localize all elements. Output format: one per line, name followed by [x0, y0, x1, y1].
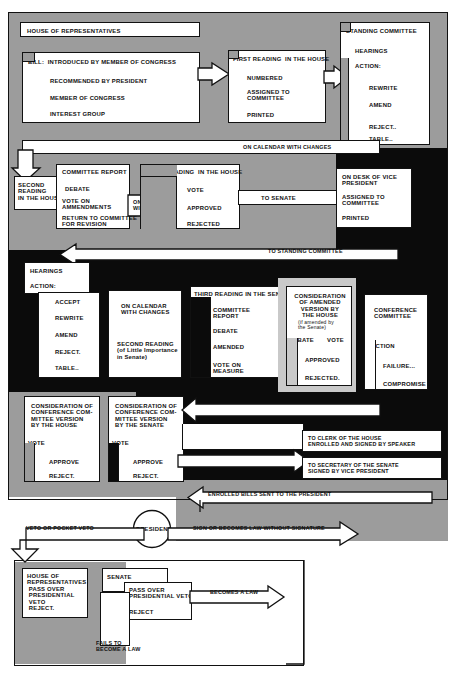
third-reading-house-item-0: VOTE: [187, 187, 204, 193]
third-reading-house-item-1: APPROVED: [187, 205, 222, 211]
on-calendar-with-changes-1-label: ON CALENDAR WITH CHANGES: [243, 145, 331, 151]
third-reading-senate-item-1: DEBATE: [213, 328, 238, 334]
to-senate-label: TO SENATE: [261, 195, 296, 201]
committee-report-item-1: VOTE ON AMMENDMENTS: [62, 198, 111, 211]
arrow-conference-to-consideration: [182, 394, 382, 428]
box-fails-to-become-law[interactable]: [100, 592, 130, 646]
third-reading-senate-item-0: COMMITTEE REPORT: [213, 307, 250, 320]
senate-action-0: ACCEPT: [55, 299, 80, 305]
box-committee-report[interactable]: COMMITTEE REPORT DEBATE VOTE ON AMMENDME…: [56, 164, 130, 229]
consideration-amended-title: CONSIDERATION OF AMENDED VERSION BY THE …: [293, 293, 347, 319]
first-reading-item-1: ASSIGNED TO COMMITTEE: [247, 89, 290, 102]
committee-report-item-2: RETURN TO COMMITTEE FOR REVISION: [62, 215, 137, 228]
box-house-of-representatives[interactable]: HOUSE OF REPRESENTATIVES: [20, 22, 200, 37]
conference-committee-title: CONFERENCE COMMITTEE: [374, 307, 417, 320]
standing-committee-left-step: [341, 58, 349, 144]
box-first-reading-house[interactable]: FIRST READING IN THE HOUSE NUMBERED ASSI…: [228, 50, 326, 123]
house-of-representatives-label: HOUSE OF REPRESENTATIVES: [27, 28, 121, 34]
conference-committee-left-step: [365, 340, 376, 389]
arrow-to-clerk-right: [178, 450, 310, 474]
box-senate-committee-actions[interactable]: ACCEPT REWRITE AMEND REJECT. TABLE..: [38, 292, 100, 378]
senate-action-label: ACTION:: [30, 283, 56, 289]
senate-calendar-line-1: SECOND READING (of Little Importance in …: [117, 341, 178, 360]
bill-title-label: BILL: INTRODUCED BY MEMBER OF CONGRESS: [28, 59, 176, 65]
third-reading-house-notch: [141, 165, 177, 177]
senate-pass-over-label: PASS OVER PRESIDENTIAL VETO: [129, 587, 193, 600]
senate-reject-label: REJECT: [129, 609, 153, 615]
arrow-enrolled-down: [198, 500, 218, 514]
box-on-desk-vice-president[interactable]: ON DESK OF VICE PRESIDENT ASSIGNED TO CO…: [336, 168, 412, 228]
bill-item-0: RECOMMENDED BY PRESIDENT: [50, 78, 147, 84]
cons-conf-senate-title: CONSIDERATION OF CONFERENCE COM- MITTEE …: [115, 403, 177, 429]
first-reading-item-2: PRINTED: [247, 112, 274, 118]
third-reading-senate-item-2: AMENDED: [213, 344, 244, 350]
senate-calendar-line-0: ON CALENDAR WITH CHANGES: [121, 303, 170, 316]
box-consideration-conference-senate[interactable]: CONSIDERATION OF CONFERENCE COM- MITTEE …: [108, 396, 184, 482]
on-desk-vp-line-1: ASSIGNED TO COMMITTEE: [342, 194, 385, 207]
cons-conf-house-approve: APPROVE: [49, 459, 79, 465]
conference-committee-failure: FAILURE...: [383, 363, 415, 369]
box-senate-calendar[interactable]: ON CALENDAR WITH CHANGES SECOND READING …: [108, 290, 182, 378]
bottom-right-connector: [286, 560, 306, 666]
box-standing-committee[interactable]: STANDING COMMITTEE HEARINGS ACTION: REWR…: [340, 22, 430, 145]
standing-committee-hearings: HEARINGS: [355, 48, 388, 54]
conference-committee-compromise: COMPROMISE: [383, 381, 426, 387]
third-reading-house-left-step: [141, 177, 177, 229]
senate-hearings-label: HEARINGS: [30, 268, 63, 274]
committee-report-title: COMMITTEE REPORT: [62, 169, 127, 175]
to-standing-committee-label: TO STANDING COMMITTEE: [268, 249, 343, 255]
senate-label-text: SENATE: [107, 574, 132, 580]
on-desk-vp-line-0: ON DESK OF VICE PRESIDENT: [342, 174, 397, 187]
arrow-to-standing-committee: [60, 244, 400, 266]
box-on-calendar-with-changes-1[interactable]: ON CALENDAR WITH CHANGES: [22, 140, 380, 154]
to-secretary-senate-label: TO SECRETARY OF THE SENATE SIGNED BY VIC…: [308, 463, 399, 475]
arrow-bill-to-first-reading: [198, 63, 232, 89]
becomes-a-law-label: BECOMES A LAW: [210, 590, 258, 596]
enrolled-bills-sent-label: ENROLLED BILLS SENT TO THE PRESIDENT: [208, 492, 331, 498]
senate-action-3: REJECT.: [55, 349, 81, 355]
senate-action-1: REWRITE: [55, 315, 84, 321]
first-reading-item-0: NUMBERED: [247, 75, 283, 81]
box-senate-pass-over-veto[interactable]: PASS OVER PRESIDENTIAL VETO REJECT: [124, 582, 192, 620]
third-reading-senate-left-step: [191, 297, 211, 377]
cons-conf-house-left-step: [25, 443, 35, 481]
consideration-amended-rejected: REJECTED.: [305, 375, 340, 381]
fails-to-become-law-label: FAILS TO BECOME A LAW: [96, 641, 141, 653]
first-reading-title: FIRST READING IN THE HOUSE: [233, 56, 329, 62]
bill-item-2: INTEREST GROUP: [50, 111, 105, 117]
bill-notch: [23, 53, 35, 62]
consideration-amended-note: (if amended by the Senate): [298, 320, 334, 331]
box-to-secretary-of-senate[interactable]: TO SECRETARY OF THE SENATE SIGNED BY VIC…: [302, 457, 442, 479]
box-house-pass-over-veto[interactable]: HOUSE OF REPRESENTATIVES PASS OVER PRESI…: [22, 568, 88, 618]
house-pass-over-label: HOUSE OF REPRESENTATIVES PASS OVER PRESI…: [27, 573, 86, 611]
consideration-amended-approved: APPROVED: [305, 357, 340, 363]
connector-to-clerk: [182, 424, 304, 450]
senate-action-4: TABLE..: [55, 365, 79, 371]
box-to-senate[interactable]: TO SENATE: [238, 190, 338, 205]
box-senate-hearings-action[interactable]: HEARINGS ACTION:: [24, 262, 90, 294]
box-bill-introduced[interactable]: BILL: INTRODUCED BY MEMBER OF CONGRESS R…: [22, 52, 200, 123]
box-second-reading-house[interactable]: SECOND READING IN THE HOUSE: [14, 176, 58, 210]
box-to-clerk-of-house[interactable]: TO CLERK OF THE HOUSE ENROLLED AND SIGNE…: [302, 430, 442, 452]
on-desk-vp-line-2: PRINTED: [342, 215, 369, 221]
cons-conf-senate-approve: APPROVE: [133, 459, 163, 465]
veto-or-pocket-veto-label: VETO OR POCKET VETO: [26, 526, 94, 532]
standing-committee-title: STANDING COMMITTEE: [346, 28, 417, 34]
standing-committee-action-0: REWRITE: [369, 85, 398, 91]
senate-action-2: AMEND: [55, 332, 78, 338]
cons-conf-house-title: CONSIDERATION OF CONFERENCE COM- MITTEE …: [31, 403, 93, 429]
consideration-amended-left-step: [287, 338, 298, 385]
cons-conf-senate-reject: REJECT.: [133, 473, 159, 479]
cons-conf-senate-left-step: [109, 443, 119, 481]
bill-item-1: MEMBER OF CONGRESS: [50, 95, 125, 101]
box-consideration-conference-house[interactable]: CONSIDERATION OF CONFERENCE COM- MITTEE …: [24, 396, 100, 482]
standing-committee-action-2: REJECT..: [369, 124, 396, 130]
standing-committee-action-1: AMEND: [369, 102, 392, 108]
first-reading-notch: [229, 51, 239, 59]
consideration-amended-vote: VOTE: [327, 337, 344, 343]
standing-committee-notch: [341, 23, 351, 32]
third-reading-house-item-2: REJECTED: [187, 221, 220, 227]
flowchart-canvas: HOUSE OF REPRESENTATIVES BILL: INTRODUCE…: [0, 0, 456, 679]
standing-committee-action: ACTION:: [355, 63, 381, 69]
committee-report-item-0: DEBATE: [65, 186, 90, 192]
